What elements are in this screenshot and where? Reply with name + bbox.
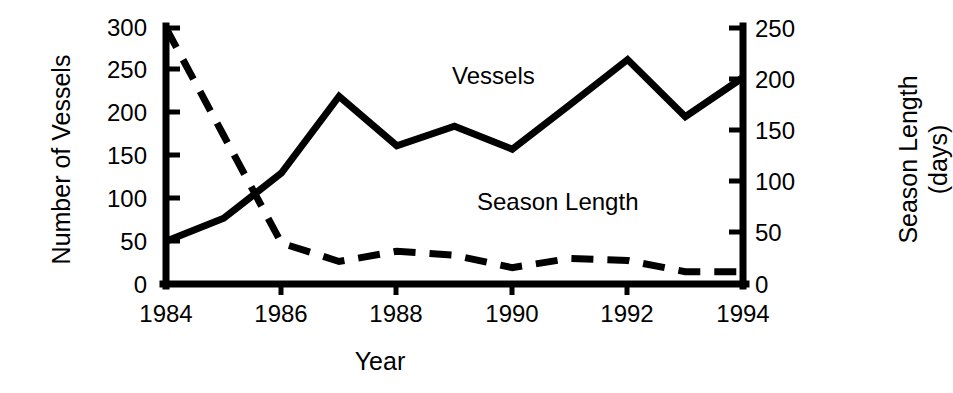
y-axis-title-right-line1: Season Length <box>894 20 923 300</box>
series-label-season-length: Season Length <box>477 188 638 216</box>
y-axis-title-left: Number of Vessels <box>47 20 76 300</box>
ytick-label-right-0: 0 <box>755 271 817 299</box>
series-label-vessels: Vessels <box>452 62 535 90</box>
xtick-label-1990: 1990 <box>472 300 552 328</box>
y-axis-title-right-line2: (days) <box>924 20 953 300</box>
x-axis-title: Year <box>0 347 760 376</box>
ytick-label-left-100: 100 <box>85 185 147 213</box>
ytick-label-left-200: 200 <box>85 99 147 127</box>
ytick-label-left-50: 50 <box>85 228 147 256</box>
ytick-label-right-250: 250 <box>755 15 817 43</box>
ytick-label-left-0: 0 <box>85 271 147 299</box>
xtick-label-1994: 1994 <box>703 300 783 328</box>
ytick-label-right-50: 50 <box>755 219 817 247</box>
ytick-label-left-250: 250 <box>85 56 147 84</box>
ytick-label-left-150: 150 <box>85 142 147 170</box>
ytick-label-right-100: 100 <box>755 168 817 196</box>
ytick-label-left-300: 300 <box>85 14 147 42</box>
xtick-label-1986: 1986 <box>241 300 321 328</box>
ytick-label-right-200: 200 <box>755 66 817 94</box>
xtick-label-1984: 1984 <box>126 300 206 328</box>
xtick-label-1988: 1988 <box>356 300 436 328</box>
ytick-label-right-150: 150 <box>755 117 817 145</box>
xtick-label-1992: 1992 <box>587 300 667 328</box>
